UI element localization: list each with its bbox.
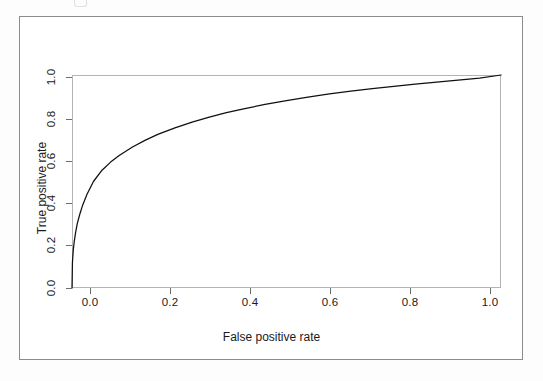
x-tick-3	[330, 288, 331, 294]
x-axis-label: False positive rate	[0, 330, 543, 344]
x-tick-label-0: 0.0	[70, 296, 110, 308]
y-tick-label-5: 1.0	[45, 62, 57, 92]
roc-chart-figure: 0.0 0.2 0.4 0.6 0.8 1.0 0.0 0.2 0.4 0.6 …	[0, 0, 543, 381]
x-tick-1	[170, 288, 171, 294]
x-tick-label-5: 1.0	[470, 296, 510, 308]
roc-curve-line	[72, 75, 501, 288]
y-tick-1	[66, 245, 72, 246]
y-tick-2	[66, 203, 72, 204]
y-tick-5	[66, 77, 72, 78]
x-tick-label-4: 0.8	[390, 296, 430, 308]
x-tick-5	[490, 288, 491, 294]
y-axis-label: True positive rate	[35, 108, 49, 268]
x-tick-2	[250, 288, 251, 294]
y-tick-3	[66, 161, 72, 162]
y-tick-0	[66, 288, 72, 289]
y-tick-label-0: 0.0	[45, 273, 57, 303]
x-tick-label-2: 0.4	[230, 296, 270, 308]
x-tick-label-3: 0.6	[310, 296, 350, 308]
y-tick-4	[66, 119, 72, 120]
x-tick-0	[90, 288, 91, 294]
x-tick-label-1: 0.2	[150, 296, 190, 308]
roc-curve-plot	[72, 75, 501, 288]
x-tick-4	[410, 288, 411, 294]
